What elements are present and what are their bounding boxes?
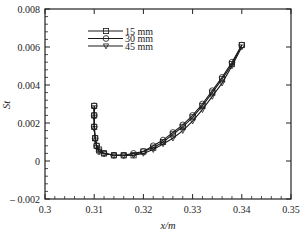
plot-frame [45,9,291,199]
legend: 15 mm30 mm45 mm [88,26,153,52]
series-line [94,47,242,155]
series-45-mm [92,45,245,158]
x-tick-label: 0.35 [282,204,300,215]
legend-label: 45 mm [125,41,153,52]
x-tick-label: 0.34 [233,204,251,215]
x-tick-label: 0.31 [85,204,103,215]
x-tick-label: 0.32 [135,204,153,215]
chart: 0.30.310.320.330.340.350.0080.0060.0040.… [0,0,302,234]
series-line [94,45,242,155]
y-tick-label: 0.002 [18,118,41,129]
y-tick-label: 0.008 [18,4,41,15]
ticks: 0.30.310.320.330.340.350.0080.0060.0040.… [9,4,300,216]
legend-item: 45 mm [88,41,153,52]
x-tick-label: 0.33 [184,204,202,215]
x-axis-label: x/m [159,220,176,231]
y-axis-label: St [1,100,12,109]
y-tick-label: 0 [35,156,40,167]
y-tick-label: – 0.002 [9,194,40,205]
x-tick-label: 0.3 [39,204,52,215]
axes [45,9,291,199]
y-tick-label: 0.004 [18,80,41,91]
y-tick-label: 0.006 [18,42,41,53]
series-layer [91,42,244,158]
